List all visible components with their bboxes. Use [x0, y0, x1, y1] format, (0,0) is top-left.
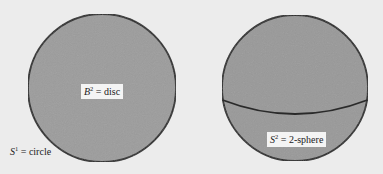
disc-label: B2 = disc [81, 84, 123, 99]
topology-figure [0, 0, 383, 174]
circle-label-superscript: 1 [15, 145, 18, 152]
circle-label: S1 = circle [10, 147, 51, 157]
sphere-label-superscript: 2 [275, 133, 278, 140]
circle-label-text: = circle [18, 146, 51, 157]
disc-label-text: = disc [93, 86, 120, 97]
sphere-label-text: = 2-sphere [278, 134, 323, 145]
disc-label-superscript: 2 [90, 85, 93, 92]
sphere-label: S2 = 2-sphere [267, 132, 326, 147]
